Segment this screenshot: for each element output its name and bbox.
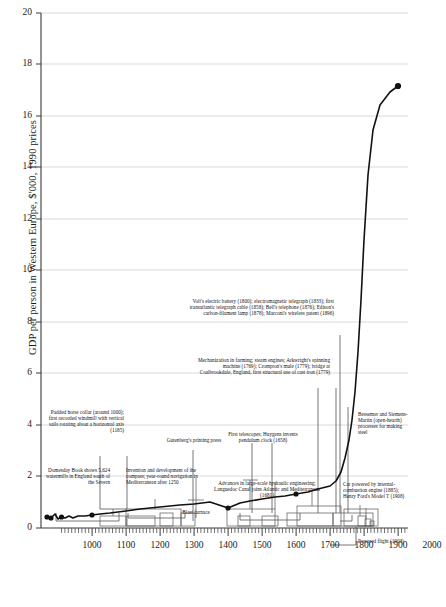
y-tick-10: 10 <box>8 264 32 274</box>
annotation-automobile: Car powered by internal-combustion engin… <box>343 481 409 499</box>
y-tick-6: 6 <box>8 367 32 377</box>
y-tick-8: 8 <box>8 316 32 326</box>
annotation-domesday-book: Domesday Book shows 5,624 watermills in … <box>42 467 110 485</box>
y-tick-20: 20 <box>8 7 32 17</box>
annotation-compass: Invention and development of the compass… <box>126 467 202 485</box>
annotation-first-telescopes: First telescopes; Huygens invents pendul… <box>218 431 308 443</box>
y-tick-18: 18 <box>8 58 32 68</box>
annotation-hydraulic-engineering: Advances in large-scale hydraulic engine… <box>208 480 326 498</box>
y-tick-14: 14 <box>8 161 32 171</box>
y-tick-4: 4 <box>8 419 32 429</box>
y-tick-16: 16 <box>8 110 32 120</box>
y-tick-12: 12 <box>8 213 32 223</box>
x-tick-2000: 2000 <box>412 540 446 550</box>
annotation-steel-processes: Bessemer and Siemens-Martin (open-hearth… <box>358 411 410 435</box>
y-tick-0: 0 <box>8 522 32 532</box>
x-minor-tick-marks <box>62 528 405 536</box>
annotation-blast-furnace: Blast furnace <box>165 509 227 515</box>
y-tick-2: 2 <box>8 470 32 480</box>
annotation-powered-flight: Powered flight (1903) <box>358 538 408 544</box>
annotation-mechanization-farming: Mechanization in farming; steam engines;… <box>196 357 330 375</box>
annotation-padded-horse-collar: Padded horse collar (around 1000); first… <box>48 409 124 433</box>
annotation-electricity-telegraph: Volt's electric battery (1800); electrom… <box>182 298 334 316</box>
